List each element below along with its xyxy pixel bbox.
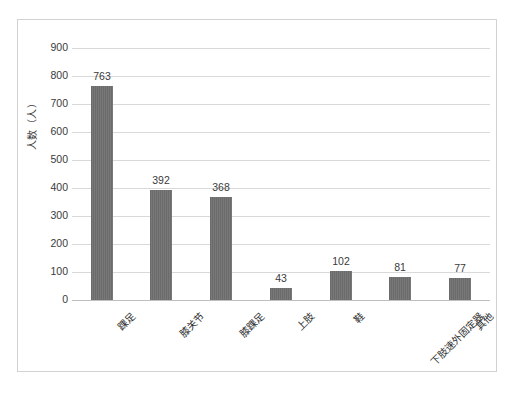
- gridline-300: [72, 216, 490, 217]
- bar-value-label: 43: [261, 272, 301, 284]
- gridline-800: [72, 76, 490, 77]
- y-tick-label: 300: [34, 210, 68, 221]
- bar-下肢速外固定器[interactable]: [389, 277, 411, 300]
- bar-鞋[interactable]: [330, 271, 352, 300]
- bar-value-label: 77: [440, 262, 480, 274]
- gridline-500: [72, 160, 490, 161]
- bar-value-label: 102: [321, 255, 361, 267]
- bar-膝关节[interactable]: [150, 190, 172, 300]
- bar-膝踝足[interactable]: [210, 197, 232, 300]
- gridline-400: [72, 188, 490, 189]
- y-tick-label: 200: [34, 238, 68, 249]
- gridline-200: [72, 244, 490, 245]
- y-tick-label: 400: [34, 182, 68, 193]
- bar-value-label: 763: [82, 70, 122, 82]
- bar-value-label: 368: [201, 181, 241, 193]
- y-tick-label: 600: [34, 126, 68, 137]
- plot-area: 763 392 368 43 102 81 77: [72, 48, 490, 300]
- bar-value-label: 81: [380, 261, 420, 273]
- bar-踝足[interactable]: [91, 86, 113, 300]
- x-axis-line: [72, 300, 490, 301]
- chart-figure: 人数（人） 0 100 200 300 400 500 600 700 800 …: [0, 0, 521, 394]
- y-tick-label: 900: [34, 42, 68, 53]
- gridline-700: [72, 104, 490, 105]
- y-tick-label: 500: [34, 154, 68, 165]
- y-tick-label: 700: [34, 98, 68, 109]
- gridline-600: [72, 132, 490, 133]
- y-tick-label: 0: [34, 294, 68, 305]
- bar-上肢[interactable]: [270, 288, 292, 300]
- bar-其他[interactable]: [449, 278, 471, 300]
- bar-value-label: 392: [141, 174, 181, 186]
- gridline-900: [72, 48, 490, 49]
- y-tick-label: 100: [34, 266, 68, 277]
- y-tick-label: 800: [34, 70, 68, 81]
